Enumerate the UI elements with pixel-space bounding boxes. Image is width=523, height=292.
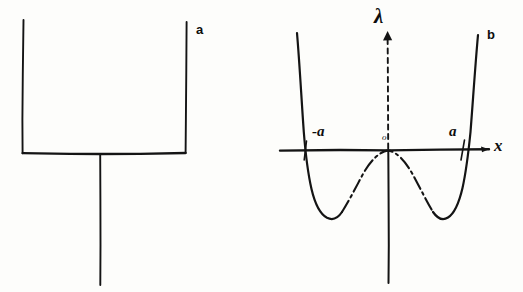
panel-b-group xyxy=(280,31,489,283)
lambda-axis-dashed-upper xyxy=(388,36,389,149)
panel-label-b: b xyxy=(487,27,495,42)
figure-drawing xyxy=(0,0,523,292)
square-well-left-wall xyxy=(22,20,23,153)
x-axis-arrowhead xyxy=(481,146,489,152)
lambda-axis-solid-lower xyxy=(388,151,389,284)
origin-label: o xyxy=(382,133,387,142)
panel-a-group xyxy=(22,20,186,285)
lambda-axis-label: λ xyxy=(374,6,383,27)
x-tick-label-positive-a: a xyxy=(449,124,457,139)
square-well-right-wall xyxy=(186,22,187,153)
x-tick-label-negative-a: -a xyxy=(312,124,325,139)
square-well-bottom xyxy=(23,153,186,154)
panel-label-a: a xyxy=(196,22,203,37)
x-axis-label: x xyxy=(494,137,503,154)
figure-container: a b λ x -a a o xyxy=(0,0,523,292)
lambda-axis-arrowhead xyxy=(383,31,392,41)
